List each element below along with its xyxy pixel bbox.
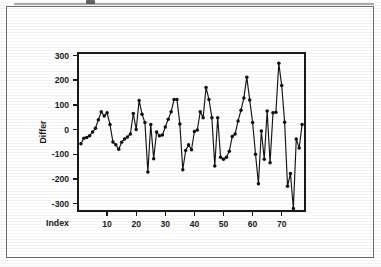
data-point	[280, 84, 284, 88]
chart-canvas: 3002001000-100-200-300 10203040506070 Di…	[0, 0, 381, 267]
data-point	[277, 62, 281, 65]
data-point	[198, 110, 202, 114]
data-point	[114, 143, 118, 147]
data-point	[161, 133, 165, 137]
data-point	[289, 172, 293, 176]
data-point	[146, 170, 150, 174]
x-tick-label: 60	[248, 219, 258, 229]
x-axis-title: Index	[46, 218, 69, 228]
x-tick-label: 40	[190, 219, 200, 229]
data-point	[230, 135, 234, 139]
data-point	[251, 121, 255, 125]
x-axis: 10203040506070	[102, 211, 286, 229]
y-tick-label: 300	[55, 51, 70, 61]
plot-frame	[78, 53, 305, 211]
data-point	[201, 116, 205, 120]
data-point	[248, 98, 252, 102]
x-tick-label: 10	[102, 219, 112, 229]
data-point	[236, 119, 240, 123]
y-tick-label: -100	[52, 149, 69, 159]
data-point	[102, 114, 106, 118]
data-point	[184, 149, 188, 153]
data-point	[219, 155, 223, 159]
data-point	[82, 136, 86, 140]
data-point	[260, 129, 264, 133]
data-point	[97, 118, 101, 122]
data-point	[100, 110, 104, 114]
data-point	[181, 168, 185, 172]
data-point	[152, 157, 156, 161]
data-point	[117, 148, 121, 152]
data-point	[164, 125, 168, 129]
data-point	[88, 134, 92, 138]
data-point	[271, 111, 275, 115]
x-tick-label: 20	[131, 219, 141, 229]
data-point	[196, 128, 200, 132]
data-point	[300, 123, 304, 127]
data-point	[132, 112, 136, 116]
data-point	[166, 117, 170, 121]
data-point	[265, 109, 269, 113]
x-tick-label: 50	[219, 219, 229, 229]
data-point	[295, 137, 299, 141]
data-point	[225, 155, 229, 159]
x-tick-label: 30	[161, 219, 171, 229]
data-point	[257, 182, 261, 186]
data-point	[111, 140, 115, 144]
data-point	[187, 143, 191, 147]
data-point	[169, 110, 173, 114]
y-tick-label: 200	[55, 75, 70, 85]
data-point	[254, 152, 258, 156]
data-point	[149, 123, 153, 127]
data-point	[242, 96, 246, 100]
data-point	[94, 127, 98, 131]
plot-area-rect	[78, 53, 305, 211]
data-point	[143, 121, 147, 125]
data-point	[91, 130, 95, 134]
data-point	[297, 146, 301, 150]
data-point	[210, 116, 214, 120]
data-point	[207, 98, 211, 102]
data-point	[85, 136, 89, 140]
y-tick-label: -200	[52, 174, 69, 184]
data-point	[120, 141, 124, 145]
data-point	[178, 122, 182, 126]
y-tick-label: 100	[55, 100, 70, 110]
data-point	[105, 111, 109, 115]
data-point	[228, 150, 232, 154]
scanned-page: 3002001000-100-200-300 10203040506070 Di…	[0, 0, 381, 267]
data-point	[134, 128, 138, 132]
data-point	[274, 111, 278, 115]
data-point	[129, 132, 133, 136]
data-point	[222, 157, 226, 161]
y-axis-title: Differ	[38, 120, 48, 144]
data-point	[283, 120, 287, 124]
data-point	[108, 123, 112, 127]
data-point	[126, 135, 130, 139]
x-tick-label: 70	[277, 219, 287, 229]
data-point	[245, 75, 249, 79]
data-point	[233, 132, 237, 136]
y-tick-label: -300	[52, 199, 69, 209]
data-point	[140, 112, 144, 116]
data-point	[155, 130, 159, 134]
y-axis: 3002001000-100-200-300	[52, 51, 78, 209]
data-point	[263, 157, 267, 161]
data-point	[292, 207, 296, 211]
data-point	[268, 161, 272, 165]
data-point	[79, 142, 83, 146]
data-point	[286, 185, 290, 189]
data-point	[216, 116, 220, 120]
data-point	[204, 86, 208, 90]
data-point	[158, 134, 162, 138]
y-tick-label: 0	[64, 125, 69, 135]
data-point	[190, 148, 194, 152]
data-point	[175, 98, 179, 102]
data-point	[213, 164, 217, 168]
data-point	[123, 137, 127, 141]
line-chart-figure: 3002001000-100-200-300 10203040506070 Di…	[0, 0, 381, 267]
data-point	[239, 109, 243, 113]
data-point	[137, 99, 141, 103]
